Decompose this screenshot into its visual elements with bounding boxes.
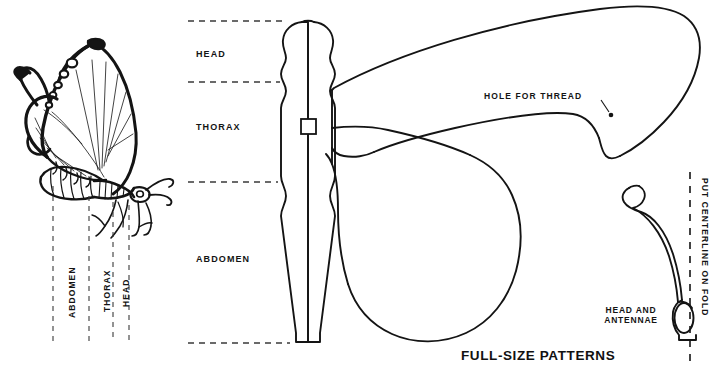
head-and-antennae-label: HEAD AND ANTENNAE bbox=[600, 306, 662, 325]
figure-title: FULL-SIZE PATTERNS bbox=[461, 348, 615, 363]
hole-for-thread-label: HOLE FOR THREAD bbox=[484, 92, 582, 101]
hole-for-thread-dot bbox=[609, 113, 614, 118]
body-segment-dividers bbox=[188, 21, 290, 343]
wing-pattern-outline bbox=[326, 6, 700, 341]
head-and-antennae-line2: ANTENNAE bbox=[600, 316, 662, 326]
pattern-sheet: ABDOMEN THORAX HEAD bbox=[0, 0, 719, 370]
body-label-abdomen: ABDOMEN bbox=[196, 255, 250, 264]
body-label-thorax: THORAX bbox=[196, 123, 241, 132]
hole-for-thread-leader bbox=[601, 100, 609, 112]
put-centerline-on-fold-label: PUT CENTERLINE ON FOLD bbox=[700, 178, 709, 316]
body-label-head: HEAD bbox=[196, 50, 226, 59]
thorax-square-marker bbox=[301, 119, 316, 134]
